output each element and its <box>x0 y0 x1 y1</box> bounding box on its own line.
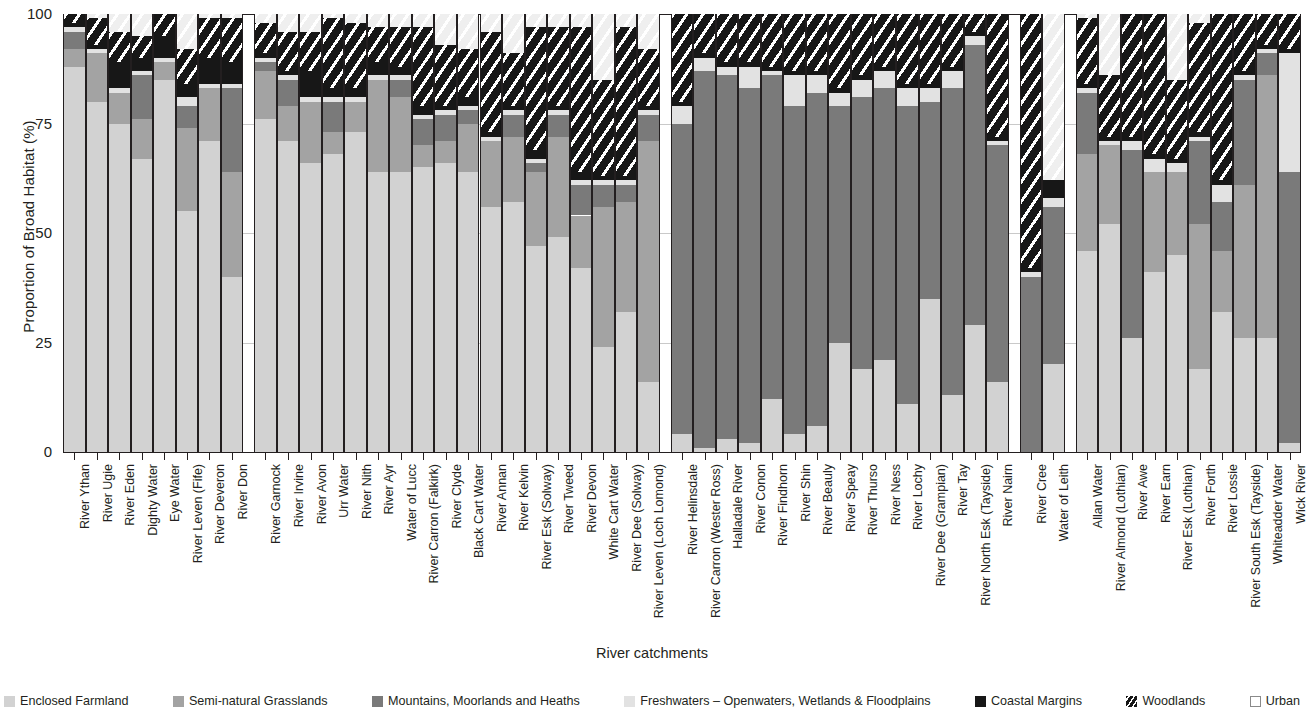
bar-segment-5 <box>784 14 805 71</box>
bar-river-clyde[interactable] <box>434 14 457 452</box>
bar-river-dee-grampian[interactable] <box>919 14 942 452</box>
bar-river-nairn[interactable] <box>986 14 1009 452</box>
bar-river-helinsdale[interactable] <box>671 14 694 452</box>
bar-segment-3 <box>255 58 276 62</box>
bar-segment-2 <box>413 119 434 145</box>
x-axis-label: River Carron (Wester Ross) <box>710 464 723 618</box>
bar-river-ness[interactable] <box>873 14 896 452</box>
bar-segment-3 <box>109 88 130 92</box>
bar-segment-1 <box>368 80 389 172</box>
bar-segment-2 <box>829 106 850 343</box>
bar-segment-0 <box>278 141 299 452</box>
bar-segment-0 <box>593 347 614 452</box>
bar-segment-1 <box>109 93 130 124</box>
x-tick-mark <box>907 452 908 460</box>
bar-river-findhorn[interactable] <box>761 14 784 452</box>
bar-river-conon[interactable] <box>738 14 761 452</box>
x-axis-label: White Cart Water <box>608 464 621 559</box>
bar-river-annan[interactable] <box>480 14 503 452</box>
bar-river-dee-solway[interactable] <box>615 14 638 452</box>
bar-river-cree[interactable] <box>1020 14 1043 452</box>
bar-river-deveron[interactable] <box>198 14 221 452</box>
bar-segment-1 <box>593 207 614 347</box>
bar-whiteadder-water[interactable] <box>1256 14 1279 452</box>
bar-river-carron-wester-ross[interactable] <box>693 14 716 452</box>
bar-white-cart-water[interactable] <box>592 14 615 452</box>
bar-river-ythan[interactable] <box>63 14 86 452</box>
bar-river-lossie[interactable] <box>1211 14 1234 452</box>
bar-river-tweed[interactable] <box>547 14 570 452</box>
legend-item-2[interactable]: Mountains, Moorlands and Heaths <box>372 694 580 708</box>
bar-segment-0 <box>435 163 456 452</box>
bar-segment-5 <box>694 14 715 53</box>
bar-water-of-lucc[interactable] <box>389 14 412 452</box>
bar-river-almond-lothian[interactable] <box>1098 14 1121 452</box>
bar-segment-5 <box>829 14 850 88</box>
legend-item-1[interactable]: Semi-natural Grasslands <box>173 694 328 708</box>
bar-halladale-river[interactable] <box>716 14 739 452</box>
bar-water-of-leith[interactable] <box>1042 14 1065 452</box>
bar-allan-water[interactable] <box>1076 14 1099 452</box>
bar-segment-2 <box>593 185 614 207</box>
x-tick-mark <box>1132 452 1133 460</box>
legend-item-5[interactable]: Woodlands <box>1126 694 1205 708</box>
bar-river-esk-lothian[interactable] <box>1166 14 1189 452</box>
x-axis-label: River Dee (Solway) <box>631 464 644 572</box>
bar-segment-3 <box>874 71 895 89</box>
bar-river-speay[interactable] <box>828 14 851 452</box>
bar-segment-4 <box>390 67 411 76</box>
bar-segment-4 <box>1122 137 1143 141</box>
bar-river-awe[interactable] <box>1121 14 1144 452</box>
bar-river-thurso[interactable] <box>851 14 874 452</box>
legend-item-0[interactable]: Enclosed Farmland <box>4 694 129 708</box>
bar-segment-4 <box>807 71 828 75</box>
bar-river-earn[interactable] <box>1143 14 1166 452</box>
bar-river-kelvin[interactable] <box>502 14 525 452</box>
bar-river-devon[interactable] <box>570 14 593 452</box>
bar-river-leven-fife[interactable] <box>176 14 199 452</box>
bar-river-don[interactable] <box>221 14 244 452</box>
bar-segment-4 <box>672 102 693 106</box>
bar-river-leven-loch-lomond[interactable] <box>637 14 660 452</box>
bar-segment-3 <box>177 97 198 106</box>
bar-segment-5 <box>548 27 569 106</box>
bar-river-forth[interactable] <box>1188 14 1211 452</box>
bar-river-south-esk-tayside[interactable] <box>1233 14 1256 452</box>
legend-item-3[interactable]: Freshwaters – Openwaters, Wetlands & Flo… <box>624 694 930 708</box>
bar-eye-water[interactable] <box>153 14 176 452</box>
bar-river-carron-falkirk[interactable] <box>412 14 435 452</box>
bar-river-north-esk-tayside[interactable] <box>964 14 987 452</box>
bar-river-shin[interactable] <box>783 14 806 452</box>
x-tick-mark <box>1245 452 1246 460</box>
bar-river-beauly[interactable] <box>806 14 829 452</box>
bar-river-avon[interactable] <box>299 14 322 452</box>
x-tick-mark <box>727 452 728 460</box>
bar-dighty-water[interactable] <box>131 14 154 452</box>
bar-segment-5 <box>413 27 434 106</box>
bar-river-eden[interactable] <box>108 14 131 452</box>
bar-segment-3 <box>390 75 411 79</box>
bar-river-garnock[interactable] <box>254 14 277 452</box>
bar-river-ayr[interactable] <box>367 14 390 452</box>
bar-segment-5 <box>874 14 895 67</box>
bar-segment-3 <box>1122 141 1143 150</box>
bar-river-nith[interactable] <box>344 14 367 452</box>
semi-natural-grasslands-swatch <box>173 696 184 707</box>
bar-wick-river[interactable] <box>1278 14 1301 452</box>
bar-river-tay[interactable] <box>941 14 964 452</box>
bar-black-cart-water[interactable] <box>457 14 480 452</box>
bar-river-esk-solway[interactable] <box>525 14 548 452</box>
legend-item-4[interactable]: Coastal Margins <box>975 694 1082 708</box>
bar-segment-2 <box>852 97 873 369</box>
freshwaters-swatch <box>624 696 635 707</box>
bar-urr-water[interactable] <box>322 14 345 452</box>
bar-segment-1 <box>548 137 569 238</box>
bar-river-lochy[interactable] <box>896 14 919 452</box>
legend-item-6[interactable]: Urban <box>1250 694 1300 708</box>
bar-river-irvine[interactable] <box>277 14 300 452</box>
bar-segment-4 <box>1167 159 1188 163</box>
bar-segment-0 <box>897 404 918 452</box>
bar-river-ugie[interactable] <box>86 14 109 452</box>
mountains-moorlands-heaths-swatch <box>372 696 383 707</box>
bar-segment-1 <box>616 202 637 312</box>
